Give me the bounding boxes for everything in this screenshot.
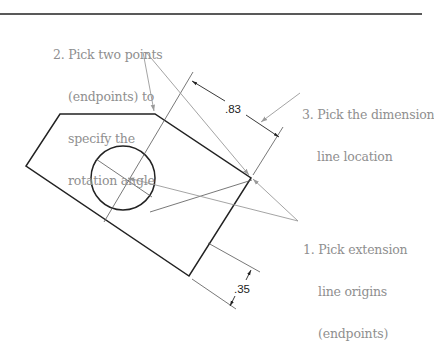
- callout-step1: 1. Pick extension line origins (endpoint…: [303, 215, 407, 345]
- callout-step1-line: line origins: [303, 285, 407, 299]
- dimension-line-35-a: [246, 270, 251, 280]
- callout-step3: 3. Pick the dimension line location: [302, 80, 434, 178]
- callout-step2-line: (endpoints) to: [53, 90, 163, 104]
- extension-line-upper: [208, 243, 260, 272]
- extension-line-lower: [192, 279, 236, 309]
- callout-step1-line: 1. Pick extension: [303, 243, 407, 257]
- callout-step3-line: line location: [302, 150, 434, 164]
- dimension-line-83-a: [192, 81, 225, 101]
- center-line-b: [150, 180, 252, 212]
- callout-step2-line: rotation angle: [53, 174, 163, 188]
- leader-step3: [261, 93, 300, 122]
- dimension-text-35: .35: [234, 283, 250, 295]
- callout-step2-line: specify the: [53, 132, 163, 146]
- leader-step1-a: [253, 179, 298, 221]
- dimension-line-35-b: [230, 296, 235, 306]
- dimension-text-83: .83: [225, 103, 241, 115]
- callout-step2-line: 2. Pick two points: [53, 48, 163, 62]
- extension-line-right: [253, 127, 283, 175]
- callout-step2: 2. Pick two points (endpoints) to specif…: [53, 20, 163, 202]
- dimension-line-83-b: [246, 115, 279, 137]
- callout-step1-line: (endpoints): [303, 327, 407, 341]
- callout-step3-line: 3. Pick the dimension: [302, 108, 434, 122]
